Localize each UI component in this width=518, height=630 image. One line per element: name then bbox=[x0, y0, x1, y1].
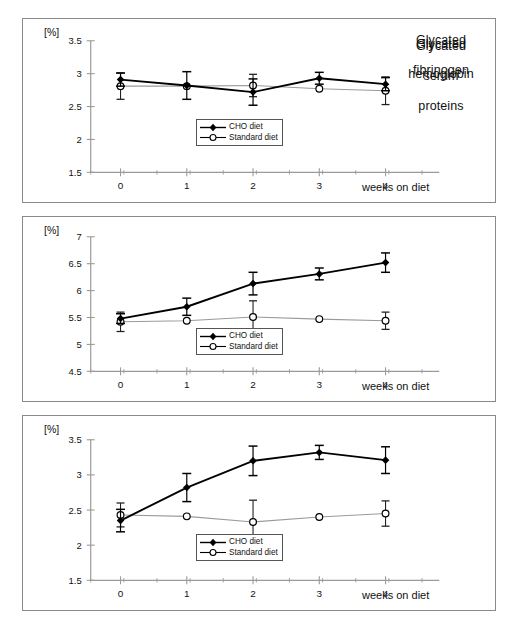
figure-page: 1.522.533.501234 Glycated hemoglobin [%]… bbox=[0, 0, 518, 630]
data-point-cho-diet bbox=[249, 280, 257, 288]
x-axis-tick-label: 3 bbox=[317, 588, 323, 599]
y-axis-unit-label-2: [%] bbox=[44, 224, 59, 236]
x-axis-title-1: weeks on diet bbox=[362, 181, 429, 193]
legend-row-cho-diet: CHO diet bbox=[200, 331, 278, 342]
y-axis-tick-label: 3.5 bbox=[69, 434, 82, 445]
x-axis-title-2: weeks on diet bbox=[362, 380, 429, 392]
y-axis-unit-label-1: [%] bbox=[44, 26, 59, 38]
chart-panel-glycated-fibrinogen: 1.522.533.501234 bbox=[22, 415, 496, 611]
legend-row-cho-diet: CHO diet bbox=[200, 122, 278, 133]
data-point-cho-diet bbox=[183, 303, 191, 311]
x-axis-tick-label: 1 bbox=[184, 588, 190, 599]
y-axis-tick-label: 2 bbox=[76, 540, 81, 551]
legend-label-cho-diet: CHO diet bbox=[229, 122, 263, 133]
y-axis-tick-label: 2 bbox=[76, 134, 81, 145]
data-point-standard-diet bbox=[250, 314, 257, 321]
data-point-standard-diet bbox=[316, 85, 323, 92]
data-point-cho-diet bbox=[249, 88, 257, 96]
data-point-cho-diet bbox=[249, 457, 257, 465]
x-axis-tick-label: 1 bbox=[184, 379, 190, 390]
y-axis-tick-label: 3 bbox=[76, 68, 81, 79]
data-point-standard-diet bbox=[183, 513, 190, 520]
legend-row-standard-diet: Standard diet bbox=[200, 133, 278, 144]
x-axis-tick-label: 3 bbox=[317, 379, 323, 390]
open-circle-icon bbox=[200, 133, 226, 142]
y-axis-tick-label: 1.5 bbox=[69, 167, 82, 178]
y-axis-tick-label: 1.5 bbox=[69, 575, 82, 586]
y-axis-tick-label: 6 bbox=[76, 285, 81, 296]
y-axis-tick-label: 5.5 bbox=[69, 312, 82, 323]
data-point-standard-diet bbox=[382, 317, 389, 324]
data-point-standard-diet bbox=[316, 316, 323, 323]
legend-label-standard-diet: Standard diet bbox=[229, 342, 278, 353]
filled-diamond-icon bbox=[200, 538, 226, 547]
y-axis-unit-label-3: [%] bbox=[44, 423, 59, 435]
x-axis-tick-label: 0 bbox=[118, 180, 124, 191]
filled-diamond-icon bbox=[200, 332, 226, 341]
data-point-cho-diet bbox=[382, 456, 390, 464]
chart-title-line-1: Glycated bbox=[382, 33, 500, 48]
data-point-cho-diet bbox=[316, 449, 324, 457]
chart-title-glycated-fibrinogen: Glycated fibrinogen bbox=[382, 18, 500, 93]
x-axis-tick-label: 1 bbox=[184, 180, 190, 191]
open-circle-icon bbox=[200, 342, 226, 351]
legend-row-cho-diet: CHO diet bbox=[200, 537, 278, 548]
x-axis-title-3: weeks on diet bbox=[362, 589, 429, 601]
y-axis-tick-label: 7 bbox=[76, 231, 81, 242]
y-axis-tick-label: 6.5 bbox=[69, 258, 82, 269]
y-axis-tick-label: 5 bbox=[76, 339, 81, 350]
y-axis-tick-label: 4.5 bbox=[69, 366, 82, 377]
chart-title-line-2: fibrinogen bbox=[382, 63, 500, 78]
data-point-standard-diet bbox=[382, 510, 389, 517]
data-point-cho-diet bbox=[117, 517, 125, 525]
data-point-cho-diet bbox=[117, 76, 125, 84]
x-axis-tick-label: 0 bbox=[118, 379, 124, 390]
x-axis-tick-label: 2 bbox=[250, 379, 256, 390]
chart-title-line-3: proteins bbox=[382, 99, 500, 114]
y-axis-tick-label: 2.5 bbox=[69, 505, 82, 516]
legend-label-cho-diet: CHO diet bbox=[229, 537, 263, 548]
legend-chart-3: CHO diet Standard diet bbox=[196, 534, 283, 561]
plot-area-glycated-serum-proteins: 4.555.566.5701234 bbox=[23, 217, 495, 401]
y-axis-tick-label: 3 bbox=[76, 469, 81, 480]
data-point-standard-diet bbox=[183, 317, 190, 324]
y-axis-tick-label: 3.5 bbox=[69, 35, 82, 46]
data-point-cho-diet bbox=[316, 74, 324, 82]
data-point-cho-diet bbox=[183, 484, 191, 492]
x-axis-tick-label: 2 bbox=[250, 588, 256, 599]
data-point-standard-diet bbox=[250, 519, 257, 526]
open-circle-icon bbox=[200, 548, 226, 557]
legend-row-standard-diet: Standard diet bbox=[200, 342, 278, 353]
legend-row-standard-diet: Standard diet bbox=[200, 548, 278, 559]
filled-diamond-icon bbox=[200, 123, 226, 132]
x-axis-tick-label: 0 bbox=[118, 588, 124, 599]
legend-chart-2: CHO diet Standard diet bbox=[196, 328, 283, 355]
data-point-cho-diet bbox=[316, 270, 324, 278]
y-axis-tick-label: 2.5 bbox=[69, 101, 82, 112]
x-axis-tick-label: 2 bbox=[250, 180, 256, 191]
legend-label-standard-diet: Standard diet bbox=[229, 548, 278, 559]
chart-panel-glycated-serum-proteins: 4.555.566.5701234 bbox=[22, 216, 496, 402]
legend-label-cho-diet: CHO diet bbox=[229, 331, 263, 342]
legend-chart-1: CHO diet Standard diet bbox=[196, 119, 283, 146]
legend-label-standard-diet: Standard diet bbox=[229, 133, 278, 144]
data-point-cho-diet bbox=[382, 259, 390, 267]
x-axis-tick-label: 3 bbox=[317, 180, 323, 191]
data-point-standard-diet bbox=[316, 514, 323, 521]
plot-area-glycated-fibrinogen: 1.522.533.501234 bbox=[23, 416, 495, 610]
